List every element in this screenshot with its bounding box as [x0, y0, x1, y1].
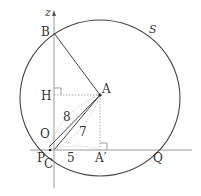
length-8-label: 8 [63, 110, 71, 124]
z-axis-arrow-icon [52, 10, 56, 16]
point-p-dot [49, 149, 51, 151]
arc-length-5 [54, 146, 100, 150]
segment-oa [49, 95, 100, 147]
point-o-label: O [40, 127, 50, 141]
length-5-label: 5 [67, 151, 75, 165]
point-q-label: Q [153, 151, 163, 165]
segment-ca [54, 95, 100, 150]
point-h-label: H [41, 89, 51, 103]
z-axis-label: z [44, 6, 51, 19]
circle-s-label: S [149, 23, 157, 36]
right-angle-a-prime [100, 143, 107, 150]
right-angle-h [54, 88, 61, 95]
point-a-label: A [101, 82, 111, 96]
point-c-label: C [44, 157, 53, 171]
geometry-diagram: z B S H A 8 7 O P C 5 A′ Q [0, 0, 201, 196]
segment-ba [54, 33, 100, 95]
point-a-prime-label: A′ [94, 151, 107, 165]
length-7-label: 7 [79, 125, 87, 139]
point-b-label: B [41, 25, 50, 39]
